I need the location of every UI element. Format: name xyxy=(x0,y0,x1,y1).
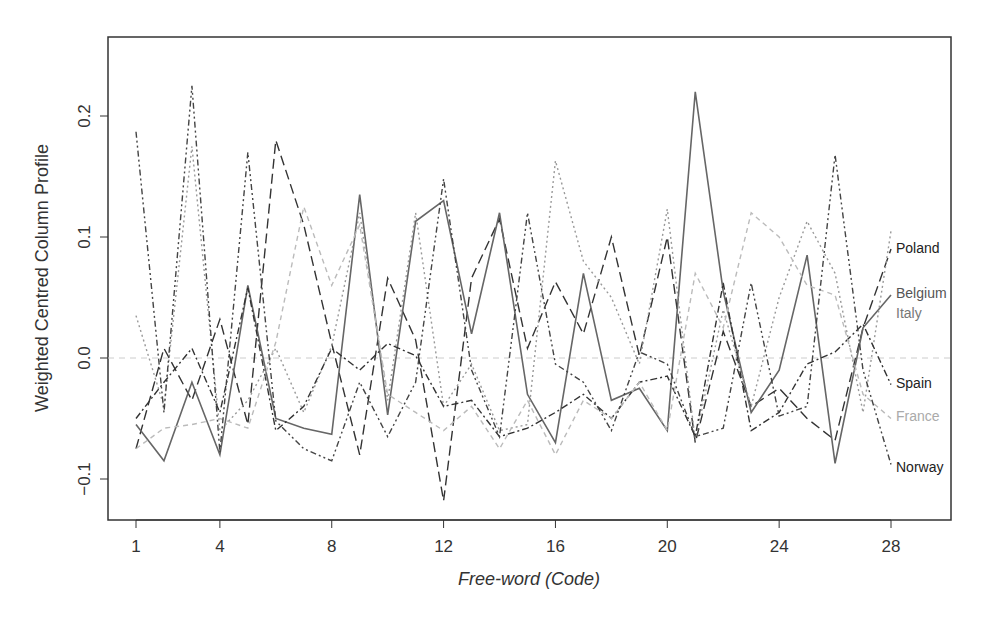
x-tick-label: 24 xyxy=(770,537,789,556)
series-poland xyxy=(136,140,891,501)
y-axis: −0.10.00.10.2 xyxy=(75,104,108,496)
y-tick-label: 0.2 xyxy=(75,104,94,128)
series-layer xyxy=(136,86,891,501)
x-tick-label: 4 xyxy=(215,537,224,556)
x-tick-label: 12 xyxy=(434,537,453,556)
x-tick-label: 16 xyxy=(546,537,565,556)
line-chart: 1481216202428 −0.10.00.10.2 Free-word (C… xyxy=(0,0,985,620)
series-label-spain: Spain xyxy=(896,375,932,391)
x-tick-label: 20 xyxy=(658,537,677,556)
y-tick-label: −0.1 xyxy=(75,462,94,496)
series-label-poland: Poland xyxy=(896,240,940,256)
x-tick-label: 8 xyxy=(327,537,336,556)
series-line-norway xyxy=(136,86,891,465)
y-axis-title: Weighted Centred Column Profile xyxy=(32,144,52,412)
series-france xyxy=(136,207,891,455)
x-axis-title: Free-word (Code) xyxy=(458,569,600,589)
x-tick-label: 1 xyxy=(131,537,140,556)
series-label-italy: Italy xyxy=(896,305,922,321)
y-tick-label: 0.0 xyxy=(75,346,94,370)
series-label-norway: Norway xyxy=(896,459,943,475)
series-line-france xyxy=(136,207,891,455)
series-norway xyxy=(136,86,891,465)
series-label-belgium: Belgium xyxy=(896,285,947,301)
x-tick-label: 28 xyxy=(882,537,901,556)
series-label-france: France xyxy=(896,408,940,424)
series-line-poland xyxy=(136,140,891,501)
plot-frame xyxy=(108,37,951,520)
y-tick-label: 0.1 xyxy=(75,225,94,249)
x-axis: 1481216202428 xyxy=(131,520,900,556)
